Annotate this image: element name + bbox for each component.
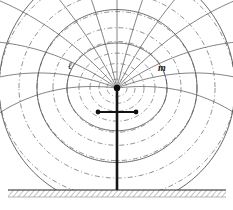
radial-field-line: [119, 41, 233, 87]
label-ell: ℓ: [68, 60, 72, 71]
gap-marker-dot-left: [96, 110, 101, 115]
radial-field-line: [118, 0, 233, 87]
radial-field-line: [0, 41, 115, 87]
figure-root: ℓ m: [0, 0, 233, 210]
outer-boundary-arc: [0, 0, 233, 88]
feed-point: [114, 85, 120, 91]
radial-field-line: [0, 87, 115, 157]
radial-field-line: [119, 87, 233, 157]
label-m: m: [158, 62, 166, 73]
radial-field-line: [60, 0, 116, 86]
ground-hatching: [8, 190, 226, 197]
field-diagram: ℓ m: [0, 0, 233, 210]
equipotential-arc: [0, 0, 233, 88]
radial-field-line: [117, 0, 173, 86]
gap-marker-dot-right: [134, 110, 139, 115]
ground-plane: [8, 190, 226, 197]
